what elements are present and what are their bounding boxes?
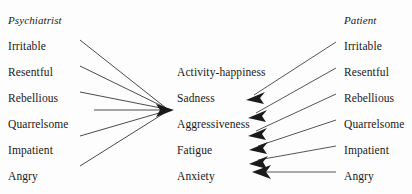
edge-left-angry [80,112,166,166]
psychiatrist-item-rebellious: Rebellious [8,90,58,106]
arrowhead-right-angry-to-anxiety [252,165,271,179]
factor-aggressiveness: Aggressiveness [177,116,250,132]
arrowhead-right-impatient [249,156,268,169]
factor-anxiety: Anxiety [177,168,215,184]
edge-left-irritable [80,40,166,108]
arrowhead-left-to-aggressiveness [156,104,174,117]
psychiatrist-item-resentful: Resentful [8,64,53,80]
patient-item-resentful: Resentful [344,64,389,80]
factor-fatigue: Fatigue [177,142,212,158]
arrowhead-right-irritable [246,92,265,104]
psychiatrist-item-irritable: Irritable [8,38,46,54]
patient-item-rebellious: Rebellious [344,90,394,106]
path-diagram: Psychiatrist Irritable Resentful Rebelli… [0,0,412,194]
edge-left-resentful [80,66,166,108]
patient-item-impatient: Impatient [344,142,389,158]
psychiatrist-item-quarrelsome: Quarrelsome [8,116,69,132]
arrowhead-right-rebellious [248,128,267,140]
edge-right-rebellious [256,94,336,131]
edge-left-rebellious [80,92,166,109]
arrowhead-right-quarrelsome [249,142,268,154]
arrowhead-right-resentful [248,110,267,122]
psychiatrist-item-impatient: Impatient [8,142,53,158]
edge-right-quarrelsome [258,120,336,146]
psychiatrist-header: Psychiatrist [8,12,62,28]
edge-right-impatient [258,146,336,160]
right-edge-group [246,42,336,179]
psychiatrist-item-angry: Angry [8,168,38,184]
left-edge-group [80,40,174,166]
factor-activity-happiness: Activity-happiness [177,64,266,80]
factor-sadness: Sadness [177,90,215,106]
patient-item-angry: Angry [344,168,374,184]
patient-header: Patient [344,12,376,28]
edge-right-resentful [256,68,336,113]
patient-item-quarrelsome: Quarrelsome [344,116,405,132]
edge-right-irritable [254,42,336,95]
patient-item-irritable: Irritable [344,38,382,54]
edge-left-impatient [80,111,166,136]
